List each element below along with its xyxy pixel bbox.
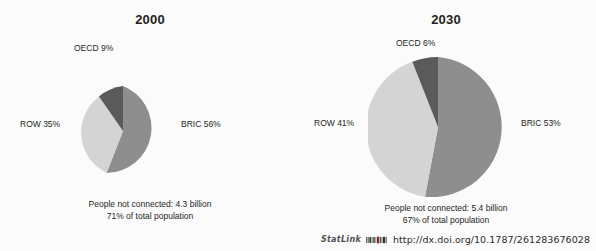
panel-title-2000: 2000: [0, 12, 300, 27]
panel-2000: 2000 OECD 9% ROW 35% BRIC 56% People not…: [0, 0, 300, 230]
statlink-row: StatLink http://dx.doi.org/10.1787/26128…: [0, 232, 596, 247]
pie-svg-2030: [368, 57, 508, 197]
pie-label-oecd-2030: OECD 6%: [396, 39, 435, 48]
pie-label-bric-2030: BRIC 53%: [521, 119, 561, 128]
pie-svg-2000: [78, 86, 168, 176]
pie-label-oecd-2000: OECD 9%: [74, 44, 113, 53]
panel-title-2030: 2030: [296, 12, 596, 27]
panel-caption-2030: People not connected: 5.4 billion 67% of…: [296, 202, 596, 226]
caption-line-not-connected-2030: People not connected: 5.4 billion: [296, 202, 596, 214]
statlink-url[interactable]: http://dx.doi.org/10.1787/261283676028: [393, 234, 590, 245]
barcode-icon: [366, 236, 388, 244]
panel-2030: 2030 OECD 6% ROW 41% BRIC 53% People not…: [296, 0, 596, 230]
panel-caption-2000: People not connected: 4.3 billion 71% of…: [0, 198, 300, 222]
pie-label-row-2000: ROW 35%: [20, 120, 60, 129]
pie-chart-2000: [78, 86, 168, 176]
pie-label-row-2030: ROW 41%: [314, 119, 354, 128]
caption-line-share-2000: 71% of total population: [0, 210, 300, 222]
pie-label-bric-2000: BRIC 56%: [181, 120, 221, 129]
caption-line-not-connected-2000: People not connected: 4.3 billion: [0, 198, 300, 210]
statlink-label: StatLink: [321, 235, 361, 244]
pie-chart-2030: [368, 57, 508, 197]
figure-pie-charts: 2000 OECD 9% ROW 35% BRIC 56% People not…: [0, 0, 596, 251]
caption-line-share-2030: 67% of total population: [296, 214, 596, 226]
